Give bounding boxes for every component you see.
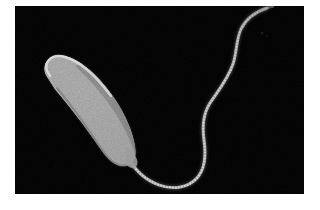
micrograph-plate	[15, 6, 304, 194]
film-grain	[15, 6, 304, 194]
micrograph-canvas	[15, 6, 304, 194]
figure-frame	[0, 0, 320, 210]
